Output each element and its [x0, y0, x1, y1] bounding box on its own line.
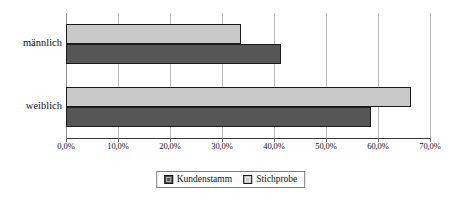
x-tick-label: 10,0%: [107, 141, 128, 151]
x-tick-label: 50,0%: [315, 141, 336, 151]
plot-area: [66, 13, 430, 138]
x-tick-label: 60,0%: [367, 141, 388, 151]
legend-label: Kundenstamm: [177, 174, 232, 184]
category-axis-line: [66, 138, 431, 139]
x-tick-label: 0,0%: [57, 141, 74, 151]
gridline: [430, 13, 431, 138]
legend-swatch-icon: [243, 175, 252, 184]
x-tick-label: 20,0%: [159, 141, 180, 151]
x-tick-label: 70,0%: [419, 141, 440, 151]
legend-item: Stichprobe: [243, 174, 297, 184]
bar-group: [66, 87, 430, 127]
legend-item: Kundenstamm: [164, 174, 232, 184]
x-axis-tick-labels: 0,0%10,0%20,0%30,0%40,0%50,0%60,0%70,0%: [0, 141, 461, 159]
bar-chart: männlichweiblich 0,0%10,0%20,0%30,0%40,0…: [0, 0, 461, 203]
x-tick-label: 40,0%: [263, 141, 284, 151]
bar-männlich-kundenstamm: [66, 44, 281, 64]
bar-weiblich-stichprobe: [66, 87, 411, 107]
bar-weiblich-kundenstamm: [66, 107, 371, 127]
bar-group: [66, 24, 430, 64]
legend-swatch-icon: [164, 175, 173, 184]
x-tick-label: 30,0%: [211, 141, 232, 151]
chart-legend: KundenstammStichprobe: [156, 171, 306, 188]
bar-männlich-stichprobe: [66, 24, 241, 44]
category-axis-labels: männlichweiblich: [0, 13, 62, 138]
legend-label: Stichprobe: [256, 174, 297, 184]
category-label: männlich: [0, 37, 62, 48]
category-label: weiblich: [0, 100, 62, 111]
